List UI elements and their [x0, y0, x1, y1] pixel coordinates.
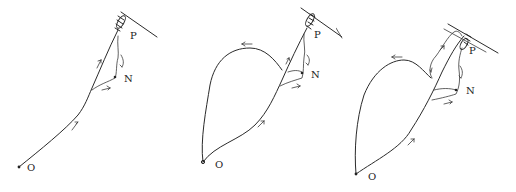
edge-mark [336, 28, 342, 38]
origin-dot [18, 166, 21, 169]
arrow-icon [444, 100, 452, 104]
branch-path-n [280, 34, 305, 86]
arrow-icon [292, 84, 300, 88]
arrow-icon [102, 86, 110, 90]
wall-line [121, 12, 157, 37]
label-target: P [469, 46, 476, 56]
origin-dot [355, 173, 358, 176]
arrow-icon [408, 139, 414, 145]
loop-path [355, 60, 431, 174]
panel-3: O P N [336, 0, 516, 192]
arrow-icon [72, 122, 78, 130]
label-target: P [130, 31, 137, 41]
arrow-icon [306, 55, 309, 65]
label-target: P [314, 30, 321, 40]
arrow-icon [392, 55, 402, 59]
label-origin: O [215, 160, 223, 170]
branch-path-n [92, 36, 118, 90]
arrow-icon [242, 42, 252, 46]
panel-3-drawing [336, 0, 516, 192]
branch-dot [455, 89, 458, 92]
label-branch: N [466, 86, 475, 96]
arrow-icon [120, 55, 123, 67]
wall-line-inner [444, 29, 486, 52]
detour-path [430, 31, 462, 78]
label-branch: N [124, 74, 133, 84]
main-path [19, 30, 118, 167]
panel-1-drawing [0, 0, 172, 192]
label-origin: O [368, 172, 376, 182]
label-branch: N [311, 70, 320, 80]
arrow-icon [97, 60, 101, 68]
branch-dot [114, 76, 117, 79]
main-path [356, 36, 464, 174]
panel-1: O P N [0, 0, 172, 192]
arrow-icon [258, 121, 264, 127]
target-object-icon [307, 14, 315, 29]
label-origin: O [27, 163, 35, 173]
panel-2: O P N [170, 0, 342, 192]
branch-dot [301, 72, 304, 75]
